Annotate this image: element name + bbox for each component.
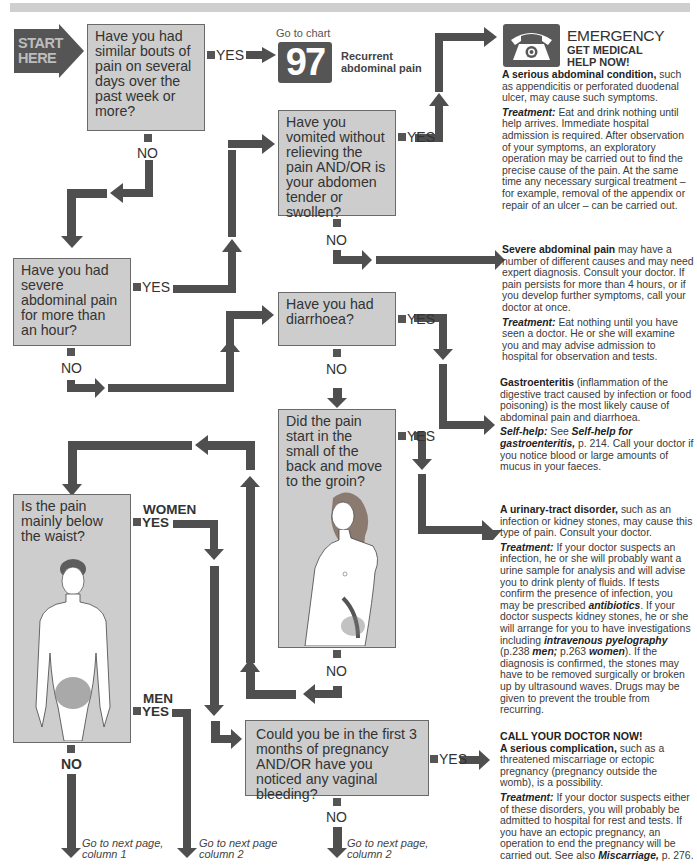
- question-box-q7: Could you be in the first 3 months of pr…: [245, 720, 429, 796]
- go-to-next-page-col1[interactable]: Go to next page,column 1: [82, 838, 163, 860]
- no-connector-q3: [67, 348, 75, 356]
- question-text: Is the pain mainly below the waist?: [21, 498, 103, 544]
- question-text: Could you be in the first 3 months of pr…: [256, 726, 417, 802]
- question-text: Have you had diarrhoea?: [286, 296, 374, 327]
- yes-label-q3: YES: [133, 280, 170, 294]
- yes-label-q2: YES: [398, 130, 435, 144]
- chart-number: 97: [286, 41, 324, 83]
- miscarriage-link[interactable]: Miscarriage,: [598, 850, 659, 861]
- question-text: Have you had severe abdominal pain for m…: [21, 262, 117, 338]
- chart-title: Recurrent abdominal pain: [341, 50, 422, 74]
- chart-97-link[interactable]: 97: [278, 42, 332, 83]
- no-label-q4: NO: [326, 362, 347, 376]
- yes-label-q4: YES: [398, 312, 435, 326]
- go-to-next-page-col2-men[interactable]: Go to next pagecolumn 2: [199, 838, 277, 860]
- no-label-q6: NO: [61, 757, 82, 771]
- question-text: Did the pain start in the small of the b…: [286, 413, 382, 489]
- no-connector-q1: [144, 134, 152, 142]
- call-doctor-alert: CALL YOUR DOCTOR NOW!: [500, 731, 694, 743]
- no-label-q1: NO: [137, 146, 158, 160]
- no-connector-q5: [333, 650, 341, 658]
- no-connector-q7: [333, 798, 341, 806]
- go-to-chart-label: Go to chart: [276, 27, 330, 39]
- question-text: Have you vomited without relieving the p…: [286, 114, 385, 220]
- question-box-q1: Have you had similar bouts of pain on se…: [87, 24, 205, 131]
- men-yes-label: MEN YES: [133, 693, 173, 718]
- woman-front-illustration: [30, 557, 116, 741]
- outcome-serious-condition: A serious abdominal condition, such as a…: [502, 69, 694, 214]
- no-connector-q2: [333, 219, 341, 227]
- emergency-title: EMERGENCY: [567, 27, 664, 45]
- no-label-q7: NO: [326, 810, 347, 824]
- question-text: Have you had similar bouts of pain on se…: [95, 28, 191, 119]
- outcome-urinary-tract: A urinary-tract disorder, such as an inf…: [500, 504, 694, 719]
- women-yes-label: WOMEN YES: [133, 503, 196, 529]
- go-to-next-page-col2-pregnancy[interactable]: Go to next page,column 2: [347, 838, 428, 860]
- no-label-q5: NO: [326, 664, 347, 678]
- connector-square: [207, 51, 215, 59]
- yes-label-q7: YES: [430, 752, 467, 766]
- question-box-q5: Did the pain start in the small of the b…: [278, 409, 396, 648]
- outcome-severe-pain: Severe abdominal pain may have a number …: [502, 244, 694, 366]
- no-label-q2: NO: [326, 233, 347, 247]
- outcome-pregnancy: CALL YOUR DOCTOR NOW! A serious complica…: [500, 731, 694, 865]
- question-box-q4: Have you had diarrhoea?: [278, 292, 396, 346]
- telephone-icon: [503, 24, 560, 67]
- yes-label-q5: YES: [398, 429, 435, 443]
- no-connector-q4: [333, 349, 341, 357]
- woman-side-illustration: [303, 488, 393, 646]
- yes-label-q1: YES: [207, 48, 244, 62]
- question-box-q3: Have you had severe abdominal pain for m…: [13, 258, 131, 346]
- no-connector-q6: [67, 745, 75, 753]
- no-label-q3: NO: [61, 361, 82, 375]
- outcome-gastroenteritis: Gastroenteritis (inflammation of the dig…: [500, 377, 694, 476]
- question-box-q6: Is the pain mainly below the waist?: [13, 494, 131, 743]
- question-box-q2: Have you vomited without relieving the p…: [278, 110, 396, 216]
- emergency-subtitle: GET MEDICAL HELP NOW!: [567, 45, 643, 68]
